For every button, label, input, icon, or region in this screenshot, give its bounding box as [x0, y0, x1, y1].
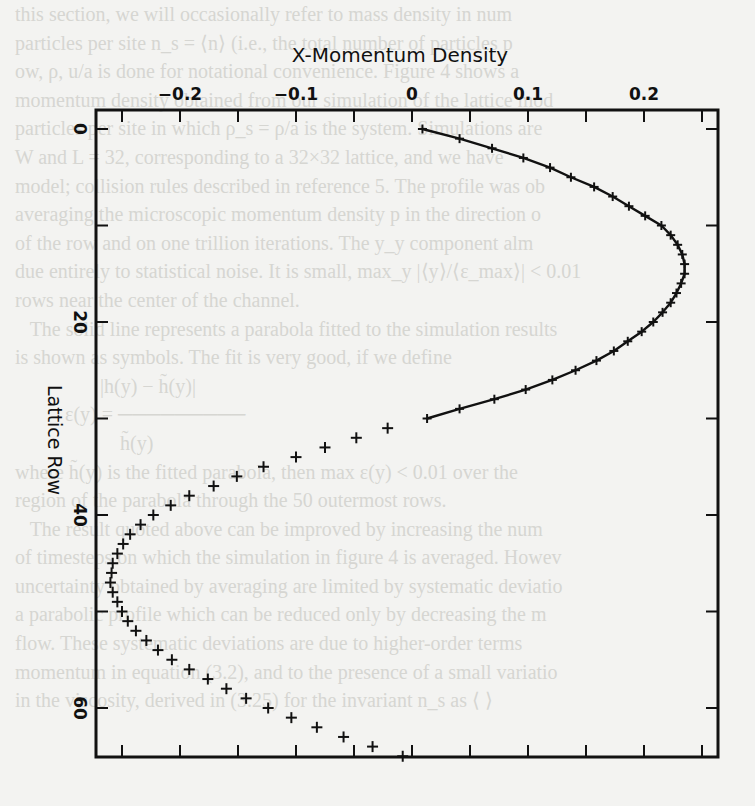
- y-tick-label: 0: [70, 123, 90, 135]
- y-axis-label: Lattice Row: [44, 385, 66, 495]
- plus-marker: [548, 375, 557, 384]
- plus-marker: [678, 250, 687, 259]
- plus-marker: [135, 519, 146, 530]
- plus-marker: [107, 587, 118, 598]
- data-series: [105, 125, 689, 762]
- plus-marker: [221, 683, 232, 694]
- plus-marker: [490, 395, 499, 404]
- plus-marker: [397, 751, 408, 762]
- plus-marker: [118, 538, 129, 549]
- plus-marker: [590, 182, 599, 191]
- plus-marker: [546, 163, 555, 172]
- plus-marker: [106, 567, 117, 578]
- plus-marker: [117, 606, 128, 617]
- plus-marker: [521, 385, 530, 394]
- plus-marker: [382, 423, 393, 434]
- plus-marker: [184, 664, 195, 675]
- plus-marker: [592, 356, 601, 365]
- plus-marker: [166, 654, 177, 665]
- plus-marker: [202, 674, 213, 685]
- plus-marker: [112, 596, 123, 607]
- plus-marker: [367, 741, 378, 752]
- x-tick-label: 0.1: [513, 84, 543, 104]
- x-tick-label: −0.2: [158, 84, 202, 104]
- plus-marker: [566, 173, 575, 182]
- plus-marker: [184, 490, 195, 501]
- plus-marker: [680, 269, 689, 278]
- plus-marker: [677, 279, 686, 288]
- plus-marker: [112, 548, 123, 559]
- fit-curve: [422, 129, 684, 419]
- y-tick-label: 60: [70, 696, 90, 720]
- x-tick-labels: −0.2−0.100.10.2: [158, 84, 659, 104]
- plus-marker: [488, 144, 497, 153]
- chart-title: X-Momentum Density: [292, 43, 508, 67]
- x-tick-label: 0: [406, 84, 418, 104]
- plus-marker: [455, 134, 464, 143]
- y-tick-label: 20: [70, 310, 90, 334]
- plus-marker: [231, 471, 242, 482]
- plus-marker: [286, 712, 297, 723]
- plus-marker: [165, 500, 176, 511]
- plus-marker: [105, 577, 116, 588]
- plus-marker: [351, 432, 362, 443]
- y-tick-label: 40: [70, 503, 90, 527]
- x-tick-label: −0.1: [274, 84, 318, 104]
- plus-marker: [320, 442, 331, 453]
- plus-marker: [148, 510, 159, 521]
- plus-marker: [291, 452, 302, 463]
- x-tick-label: 0.2: [629, 84, 659, 104]
- plus-marker: [338, 731, 349, 742]
- plus-marker: [241, 693, 252, 704]
- plus-marker: [519, 153, 528, 162]
- plus-marker: [152, 645, 163, 656]
- plus-marker: [571, 366, 580, 375]
- plus-marker: [122, 616, 133, 627]
- plus-marker: [130, 625, 141, 636]
- momentum-profile-chart: X-Momentum Density −0.2−0.100.10.2 02040…: [0, 0, 755, 806]
- plus-marker: [680, 260, 689, 269]
- plus-marker: [263, 703, 274, 714]
- plus-marker: [208, 481, 219, 492]
- plus-marker: [125, 529, 136, 540]
- plus-marker: [258, 461, 269, 472]
- plus-marker: [141, 635, 152, 646]
- plus-marker: [418, 125, 427, 134]
- y-tick-labels: 0204060: [70, 123, 90, 720]
- plus-marker: [311, 722, 322, 733]
- plus-marker: [455, 404, 464, 413]
- plus-marker: [107, 558, 118, 569]
- plus-marker: [423, 414, 432, 423]
